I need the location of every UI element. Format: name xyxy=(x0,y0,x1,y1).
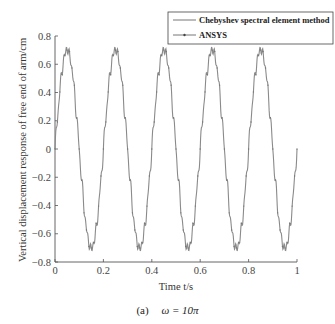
series-ansys-marker xyxy=(91,247,92,248)
x-tick-label: 0 xyxy=(52,265,57,276)
series-ansys-marker xyxy=(204,91,205,92)
series-ansys-marker xyxy=(137,246,138,247)
y-tick-label: 0 xyxy=(46,144,51,155)
series-ansys-marker xyxy=(267,84,268,85)
series-ansys-marker xyxy=(277,212,278,213)
x-tick-label: 0.6 xyxy=(194,265,207,276)
series-ansys-marker xyxy=(236,247,237,248)
series-ansys-marker xyxy=(214,51,215,52)
y-tick-label: 0.6 xyxy=(38,59,51,70)
series-ansys-marker xyxy=(207,74,208,75)
series-ansys-marker xyxy=(151,148,152,149)
series-ansys-marker xyxy=(287,242,288,243)
series-ansys-marker xyxy=(170,84,171,85)
series-ansys-marker xyxy=(139,247,140,248)
series-ansys-marker xyxy=(79,148,80,149)
y-tick-label: 0.8 xyxy=(38,31,51,42)
series-ansys-marker xyxy=(197,175,198,176)
x-tick-label: 0.2 xyxy=(97,265,110,276)
series-ansys-marker xyxy=(216,67,217,68)
series-ansys-marker xyxy=(141,242,142,243)
series-ansys-marker xyxy=(124,117,125,118)
x-axis-title: Time t/s xyxy=(159,281,193,292)
series-ansys-marker xyxy=(185,246,186,247)
x-tick-label: 1 xyxy=(294,265,299,276)
series-ansys-marker xyxy=(231,229,232,230)
series-ansys-marker xyxy=(122,84,123,85)
series-ansys-marker xyxy=(161,55,162,56)
series-ansys-marker xyxy=(105,121,106,122)
series-ansys-marker xyxy=(158,74,159,75)
series-ansys-marker xyxy=(83,212,84,213)
series-ansys-marker xyxy=(195,205,196,206)
chart: 0.80.60.40.20−0.2−0.4−0.6−0.800.20.40.60… xyxy=(0,0,335,324)
series-ansys-marker xyxy=(296,148,297,149)
series-ansys-marker xyxy=(180,212,181,213)
series-ansys-marker xyxy=(66,49,67,50)
series-ansys-marker xyxy=(168,67,169,68)
series-ansys-marker xyxy=(248,148,249,149)
series-ansys-marker xyxy=(255,74,256,75)
series-ansys-marker xyxy=(166,51,167,52)
series-ansys-marker xyxy=(178,179,179,180)
series-ansys-marker xyxy=(115,49,116,50)
series-ansys-marker xyxy=(144,223,145,224)
series-ansys-marker xyxy=(149,175,150,176)
series-ansys-marker xyxy=(98,205,99,206)
series-ansys-marker xyxy=(71,67,72,68)
legend-marker-ansys xyxy=(183,34,185,36)
y-tick-label: 0.4 xyxy=(38,87,52,98)
series-ansys-marker xyxy=(134,229,135,230)
series-ansys-marker xyxy=(146,205,147,206)
series-ansys-marker xyxy=(76,117,77,118)
series-ansys-marker xyxy=(64,55,65,56)
series-ansys-marker xyxy=(103,148,104,149)
series-ansys-marker xyxy=(221,117,222,118)
x-tick-label: 0.4 xyxy=(145,265,159,276)
series-ansys-marker xyxy=(120,67,121,68)
y-tick-label: −0.6 xyxy=(32,228,51,239)
series-ansys-marker xyxy=(202,121,203,122)
series-ansys-marker xyxy=(258,55,259,56)
series-ansys-marker xyxy=(262,51,263,52)
figure-caption: (a) ω = 10π xyxy=(0,304,335,316)
series-ansys-marker xyxy=(294,175,295,176)
series-ansys-marker xyxy=(156,91,157,92)
series-ansys-marker xyxy=(282,246,283,247)
series-ansys-marker xyxy=(69,51,70,52)
series-ansys-marker xyxy=(112,55,113,56)
series-ansys-marker xyxy=(74,84,75,85)
series-ansys-marker xyxy=(129,179,130,180)
y-tick-label: −0.8 xyxy=(32,257,51,268)
series-ansys-marker xyxy=(183,229,184,230)
x-tick-label: 0.8 xyxy=(242,265,255,276)
series-ansys-marker xyxy=(265,67,266,68)
y-axis-title: Vertical displacement response of free e… xyxy=(17,38,28,262)
series-ansys-marker xyxy=(88,246,89,247)
series-ansys-marker xyxy=(279,229,280,230)
series-ansys-marker xyxy=(224,148,225,149)
series-ansys-marker xyxy=(100,175,101,176)
series-ansys-marker xyxy=(275,179,276,180)
series-ansys-marker xyxy=(238,242,239,243)
series-ansys-marker xyxy=(117,51,118,52)
y-tick-label: 0.2 xyxy=(38,115,51,126)
series-ansys-marker xyxy=(250,121,251,122)
caption-formula: ω = 10π xyxy=(161,304,198,316)
series-ansys-marker xyxy=(86,229,87,230)
series-ansys-marker xyxy=(253,91,254,92)
series-ansys-marker xyxy=(270,117,271,118)
series-ansys-marker xyxy=(245,175,246,176)
series-ansys-marker xyxy=(175,148,176,149)
series-ansys-marker xyxy=(241,223,242,224)
legend: Chebyshev spectral element method ANSYS xyxy=(168,12,333,44)
caption-tag: (a) xyxy=(136,304,148,316)
series-ansys-marker xyxy=(284,247,285,248)
series-ansys-marker xyxy=(209,55,210,56)
series-ansys-marker xyxy=(93,242,94,243)
series-ansys-marker xyxy=(187,247,188,248)
series-ansys-marker xyxy=(243,205,244,206)
series-ansys-marker xyxy=(95,223,96,224)
series-ansys-marker xyxy=(62,74,63,75)
y-tick-label: −0.4 xyxy=(32,200,52,211)
